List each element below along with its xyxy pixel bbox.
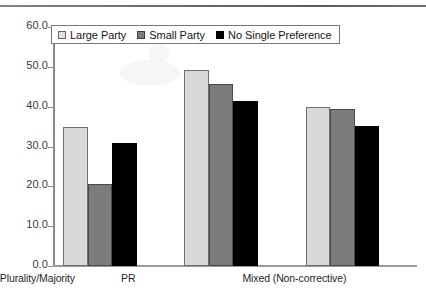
x-axis-category-label: Mixed (Non-corrective)	[242, 272, 346, 284]
y-axis-tick-label: 0.0	[32, 258, 48, 270]
y-axis-tick-mark	[48, 266, 53, 267]
x-axis-category-label: Plurality/Majority	[0, 272, 75, 284]
legend-entry: Small Party	[137, 29, 205, 41]
y-axis-tick-label: 30.0	[26, 139, 48, 151]
bar	[355, 126, 380, 266]
y-axis-tick-label: 40.0	[26, 99, 48, 111]
x-axis-category-label: PR	[121, 272, 135, 284]
bar	[112, 143, 137, 266]
bar	[306, 107, 331, 266]
bar	[63, 127, 88, 266]
legend-label: Large Party	[70, 29, 126, 41]
y-axis-tick-label: 20.0	[26, 178, 48, 190]
legend-label: Small Party	[149, 29, 205, 41]
legend-entry: No Single Preference	[216, 29, 332, 41]
bar	[233, 101, 258, 266]
y-axis-tick-label: 50.0	[26, 59, 48, 71]
bar-chart: 60.050.040.030.020.010.00.0 Plurality/Ma…	[0, 0, 426, 300]
legend-entry: Large Party	[58, 29, 126, 41]
y-axis-tick-label: 10.0	[26, 218, 48, 230]
chart-legend: Large PartySmall PartyNo Single Preferen…	[51, 25, 340, 44]
legend-label: No Single Preference	[228, 29, 332, 41]
bar	[209, 84, 234, 266]
bar	[184, 70, 209, 266]
dark-gray-swatch	[137, 31, 145, 39]
bar	[88, 184, 113, 266]
bars-layer	[53, 27, 417, 266]
y-axis-tick-label: 60.0	[26, 19, 48, 31]
bar	[330, 109, 355, 266]
light-gray-swatch	[58, 31, 66, 39]
black-swatch	[216, 31, 224, 39]
